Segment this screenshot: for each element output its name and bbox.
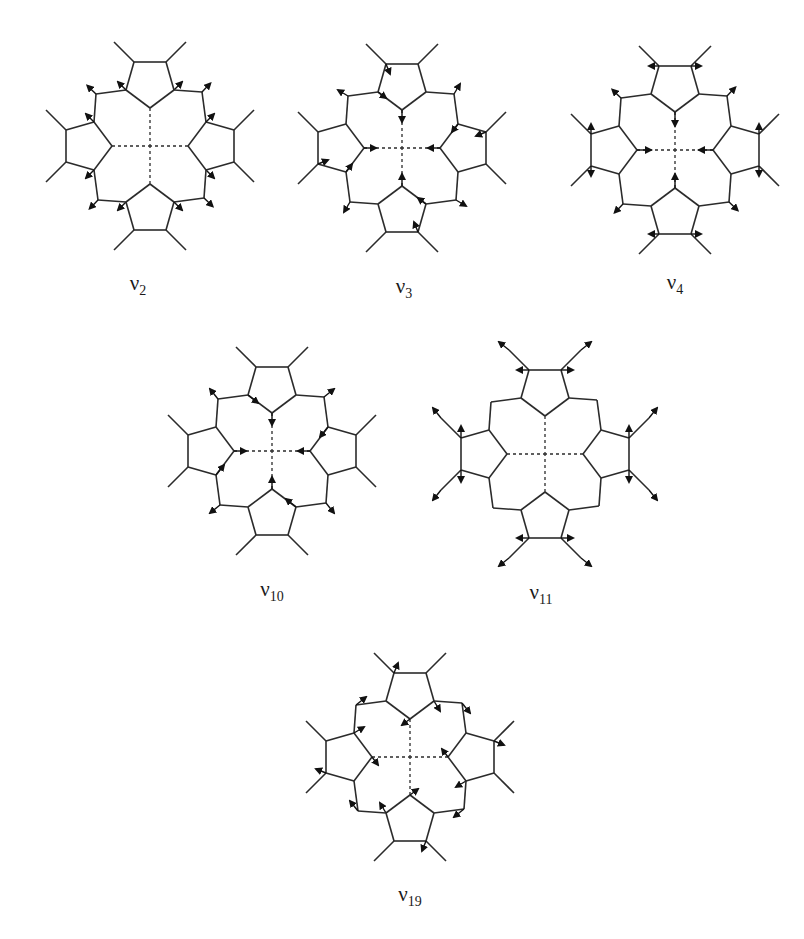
porphyrin-v19-diagram	[0, 0, 804, 939]
mode-label-v19: ν19	[398, 882, 422, 910]
mode-subscript: 19	[408, 894, 422, 909]
nu-symbol: ν	[398, 882, 408, 906]
